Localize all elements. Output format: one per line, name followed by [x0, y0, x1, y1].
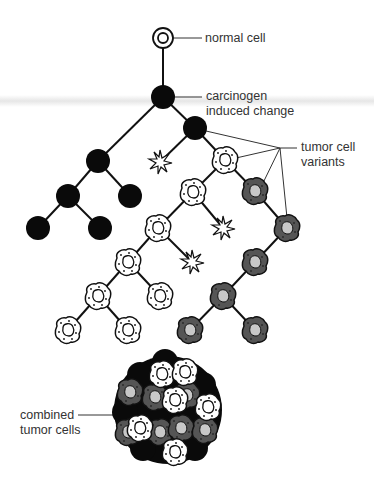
label-carcinogen-line1: carcinogen — [206, 89, 267, 104]
label-normal-cell: normal cell — [205, 31, 265, 46]
label-combined-line1: combined — [20, 408, 74, 423]
label-combined-line2: tumor cells — [20, 423, 80, 438]
label-variants-line1: tumor cell — [301, 140, 355, 155]
transformed-cells — [26, 85, 207, 240]
normal-cell-icon — [153, 28, 173, 48]
label-carcinogen-line2: induced change — [206, 104, 294, 119]
label-variants-line2: variants — [301, 155, 345, 170]
combined-tumor-cluster — [112, 349, 222, 465]
